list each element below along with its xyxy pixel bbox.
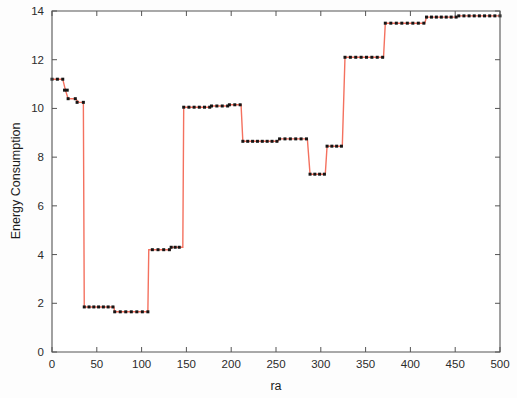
data-point-marker (435, 16, 438, 19)
data-point-marker (182, 106, 185, 109)
data-point-marker (493, 14, 496, 17)
data-point-marker (241, 140, 244, 143)
y-tick-label: 2 (38, 297, 44, 309)
data-point-marker (430, 16, 433, 19)
data-point-marker (221, 104, 224, 107)
data-point-marker (251, 140, 254, 143)
data-point-marker (330, 145, 333, 148)
data-point-marker (343, 56, 346, 59)
data-point-marker (294, 137, 297, 140)
chart-figure: 050100150200250300350400450500 024681012… (0, 0, 517, 398)
data-point-marker (56, 78, 59, 81)
data-point-marker (457, 14, 460, 17)
x-tick-label: 500 (490, 358, 509, 370)
data-point-marker (261, 140, 264, 143)
data-point-marker (440, 16, 443, 19)
data-point-marker (102, 305, 105, 308)
data-point-marker (63, 89, 66, 92)
data-point-marker (203, 106, 206, 109)
data-point-marker (455, 16, 458, 19)
data-point-marker (354, 56, 357, 59)
x-tick-label: 200 (222, 358, 241, 370)
data-point-marker (88, 305, 91, 308)
x-tick-label: 250 (266, 358, 285, 370)
x-tick-label: 150 (177, 358, 196, 370)
data-point-marker (305, 137, 308, 140)
data-point-marker (417, 22, 420, 25)
data-point-marker (468, 14, 471, 17)
data-point-marker (162, 248, 165, 251)
data-point-marker (422, 22, 425, 25)
x-tick-label: 50 (90, 358, 103, 370)
data-point-marker (130, 310, 133, 313)
data-point-marker (360, 56, 363, 59)
energy-consumption-line-chart: 050100150200250300350400450500 024681012… (0, 0, 517, 398)
data-point-marker (283, 137, 286, 140)
data-point-marker (198, 106, 201, 109)
data-point-marker (318, 173, 321, 176)
data-point-marker (151, 248, 154, 251)
data-point-marker (107, 305, 110, 308)
data-point-marker (174, 246, 177, 249)
data-point-marker (67, 97, 70, 100)
data-point-marker (384, 22, 387, 25)
data-point-marker (450, 16, 453, 19)
data-point-marker (381, 56, 384, 59)
y-tick-label: 0 (38, 346, 44, 358)
data-point-marker (488, 14, 491, 17)
data-point-marker (278, 137, 281, 140)
y-tick-label: 6 (38, 200, 44, 212)
data-point-marker (445, 16, 448, 19)
data-point-marker (92, 305, 95, 308)
data-point-marker (146, 310, 149, 313)
data-point-marker (135, 310, 138, 313)
x-tick-label: 350 (356, 358, 375, 370)
data-point-marker (425, 16, 428, 19)
data-point-marker (323, 173, 326, 176)
data-point-marker (271, 140, 274, 143)
x-axis-title: ra (270, 379, 281, 393)
data-point-marker (97, 305, 100, 308)
plot-area-background (52, 11, 500, 352)
data-point-marker (170, 246, 173, 249)
data-point-marker (478, 14, 481, 17)
x-tick-label: 400 (401, 358, 420, 370)
data-point-marker (335, 145, 338, 148)
data-point-marker (76, 101, 79, 104)
data-point-marker (256, 140, 259, 143)
data-point-marker (406, 22, 409, 25)
y-tick-label: 8 (38, 151, 44, 163)
data-point-marker (193, 106, 196, 109)
data-point-marker (326, 145, 329, 148)
data-point-marker (111, 305, 114, 308)
data-point-marker (119, 310, 122, 313)
x-tick-label: 100 (132, 358, 151, 370)
y-tick-label: 14 (31, 5, 44, 17)
data-point-marker (124, 310, 127, 313)
data-point-marker (395, 22, 398, 25)
y-tick-label: 10 (31, 102, 44, 114)
data-point-marker (473, 14, 476, 17)
data-point-marker (233, 103, 236, 106)
data-point-marker (289, 137, 292, 140)
data-point-marker (157, 248, 160, 251)
data-point-marker (239, 103, 242, 106)
data-point-marker (275, 140, 278, 143)
data-point-marker (113, 310, 116, 313)
data-point-marker (309, 173, 312, 176)
data-point-marker (483, 14, 486, 17)
data-point-marker (266, 140, 269, 143)
data-point-marker (83, 305, 86, 308)
x-tick-label: 300 (311, 358, 330, 370)
data-point-marker (340, 145, 343, 148)
x-tick-label: 450 (446, 358, 465, 370)
data-point-marker (462, 14, 465, 17)
data-point-marker (365, 56, 368, 59)
data-point-marker (82, 101, 85, 104)
data-point-marker (313, 173, 316, 176)
data-point-marker (74, 97, 77, 100)
data-point-marker (389, 22, 392, 25)
data-point-marker (61, 78, 64, 81)
y-tick-label: 4 (38, 249, 45, 261)
data-point-marker (300, 137, 303, 140)
